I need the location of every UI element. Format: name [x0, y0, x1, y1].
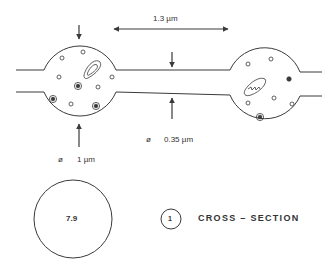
dense-core-vesicle-icon	[49, 82, 99, 109]
dense-core-vesicle-icon	[256, 77, 291, 121]
cross-section-label: CROSS – SECTION	[198, 214, 300, 223]
right-varicosity	[244, 57, 294, 121]
vesicle-icon	[57, 50, 114, 106]
mitochondrion-icon	[84, 61, 101, 79]
mitochondrion-icon	[244, 78, 265, 95]
neck-diameter-value: 0.35 µm	[164, 136, 193, 144]
cross-section-value: 7.9	[66, 215, 77, 223]
axon-outline	[16, 46, 322, 119]
left-varicosity	[49, 50, 114, 110]
neck-diameter-symbol: ø	[146, 136, 151, 144]
spacing-label: 1.3 µm	[153, 15, 178, 23]
cross-section-index: 1	[168, 215, 172, 222]
bulb-diameter-symbol: ø	[58, 156, 63, 164]
bulb-diameter-value: 1 µm	[77, 156, 95, 164]
dimension-arrows	[79, 25, 228, 147]
